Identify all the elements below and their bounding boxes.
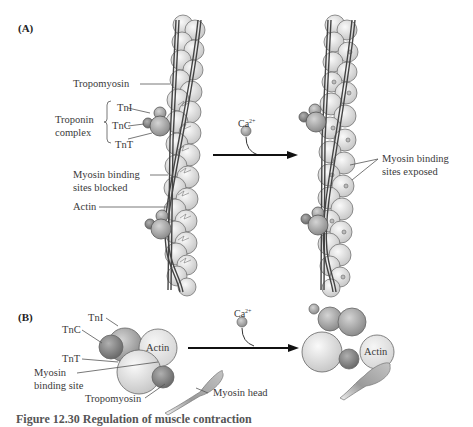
label-calcium-a: Ca2+ (238, 115, 256, 130)
label-tnt-a: TnT (115, 139, 133, 151)
actin-filament-blocked (143, 15, 205, 296)
label-exposed-line1: Myosin binding (382, 153, 449, 165)
label-tni-a: TnI (117, 102, 132, 114)
label-tni-b: TnI (88, 312, 103, 324)
calcium-charge: 2+ (245, 308, 251, 314)
label-actin-b-left: Actin (146, 342, 169, 354)
label-tropomyosin-b: Tropomyosin (85, 393, 141, 405)
label-binding-line1: Myosin (34, 367, 66, 379)
calcium-arrow-a (213, 126, 298, 159)
calcium-symbol: Ca (234, 308, 245, 319)
calcium-arrow-b (188, 317, 299, 352)
label-blocked-line1: Myosin binding (73, 169, 140, 181)
label-tropomyosin-a: Tropomyosin (73, 78, 129, 90)
label-tnt-b: TnT (62, 353, 80, 365)
label-binding-line2: binding site (34, 380, 83, 392)
figure-caption: Figure 12.30 Regulation of muscle contra… (16, 412, 252, 427)
calcium-charge: 2+ (249, 118, 255, 124)
label-actin-a: Actin (73, 201, 96, 213)
actin-filament-exposed (299, 15, 358, 297)
label-blocked-line2: sites blocked (73, 182, 128, 194)
troponin-complex-activated (302, 304, 394, 372)
label-actin-b-right: Actin (364, 346, 387, 358)
calcium-symbol: Ca (238, 118, 249, 129)
label-tnc-a: TnC (112, 120, 131, 132)
label-myosin-head: Myosin head (213, 387, 268, 399)
label-tnc-b: TnC (62, 324, 81, 336)
label-troponin-complex-line2: complex (55, 127, 91, 139)
label-calcium-b: Ca2+ (234, 305, 252, 320)
label-troponin-complex-line1: Troponin (55, 114, 94, 126)
label-exposed-line2: sites exposed (382, 166, 438, 178)
